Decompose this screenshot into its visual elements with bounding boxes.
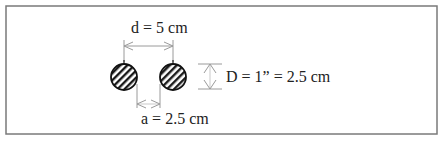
center-distance-label: d = 5 cm	[131, 19, 188, 36]
gap-label: a = 2.5 cm	[141, 110, 209, 127]
diagram-canvas: d = 5 cm D = 1” = 2.5 cm a = 2.5 cm	[0, 0, 447, 143]
diameter-label: D = 1” = 2.5 cm	[226, 68, 331, 85]
diagram-border	[6, 6, 437, 134]
left-bar-circle	[111, 64, 137, 90]
right-bar-circle	[160, 64, 186, 90]
